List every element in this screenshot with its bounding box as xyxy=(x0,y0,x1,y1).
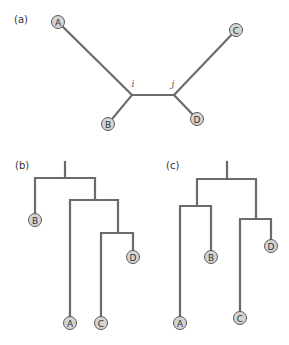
leaf-node-b: B xyxy=(205,251,218,264)
leaf-node-a: A xyxy=(64,317,77,330)
panel-c-label: (c) xyxy=(166,160,179,171)
leaf-node-d: D xyxy=(191,113,204,126)
panel-c: (c) A B C D xyxy=(166,160,278,330)
svg-text:B: B xyxy=(32,216,38,226)
svg-text:D: D xyxy=(194,115,201,125)
leaf-node-c: C xyxy=(230,24,243,37)
leaf-node-a: A xyxy=(174,317,187,330)
root-split-c xyxy=(197,179,256,219)
leaf-node-d: D xyxy=(127,251,140,264)
leaf-node-a: A xyxy=(52,16,65,29)
split-a-cd-b xyxy=(70,200,118,317)
leaf-node-d: D xyxy=(265,240,278,253)
svg-text:A: A xyxy=(177,319,184,329)
leaf-node-c: C xyxy=(234,312,247,325)
svg-text:D: D xyxy=(268,242,275,252)
svg-text:C: C xyxy=(233,26,239,36)
phylogenetic-trees-figure: (a) i j A B C D (b) B xyxy=(0,0,289,345)
panel-b: (b) B A C D xyxy=(15,160,140,330)
svg-text:C: C xyxy=(237,314,243,324)
branch-j-to-c xyxy=(174,30,236,95)
leaf-node-b: B xyxy=(29,214,42,227)
svg-text:C: C xyxy=(98,319,104,329)
leaf-node-c: C xyxy=(95,317,108,330)
svg-text:B: B xyxy=(105,120,111,130)
junction-j-label: j xyxy=(170,79,175,89)
panel-b-label: (b) xyxy=(15,160,29,171)
panel-a-label: (a) xyxy=(14,14,28,25)
svg-text:A: A xyxy=(67,319,74,329)
panel-a: (a) i j A B C D xyxy=(14,14,243,131)
svg-text:A: A xyxy=(55,18,62,28)
svg-text:D: D xyxy=(130,253,137,263)
root-split-b xyxy=(35,178,95,214)
svg-text:B: B xyxy=(208,253,214,263)
junction-i-label: i xyxy=(132,79,135,89)
split-c-d-c xyxy=(240,219,271,312)
leaf-node-b: B xyxy=(102,118,115,131)
branch-a-to-i xyxy=(58,22,132,95)
split-c-d-b xyxy=(101,233,133,317)
